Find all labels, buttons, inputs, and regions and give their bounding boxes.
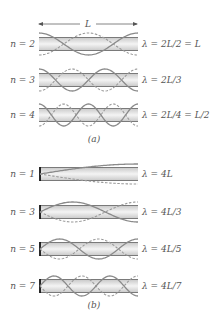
tube-part_b-n1: n = 1λ = 4L: [10, 164, 172, 184]
arrowhead-left-icon: [38, 22, 43, 26]
wavelength-equation: λ = 2L/4 = L/2: [141, 110, 210, 120]
standing-waves-diagram: L n = 2λ = 2L/2 = Ln = 3λ = 2L/3n = 4λ =…: [0, 0, 219, 316]
tube-body: [40, 168, 138, 181]
length-dimension: L: [38, 19, 138, 29]
wavelength-equation: λ = 4L/3: [141, 207, 182, 217]
tube-body: [39, 38, 138, 51]
mode-number-label: n = 2: [10, 39, 35, 49]
tube-part_b-n3: n = 3λ = 4L/3: [10, 202, 181, 222]
tube-part_b-n7: n = 7λ = 4L/7: [10, 276, 181, 296]
tube-body: [39, 109, 138, 122]
wavelength-equation: λ = 2L/2 = L: [141, 39, 201, 49]
mode-number-label: n = 1: [10, 169, 35, 179]
mode-number-label: n = 5: [10, 244, 35, 254]
part-a-caption: (a): [88, 134, 101, 144]
part-b-closed-tubes: n = 1λ = 4Ln = 3λ = 4L/3n = 5λ = 4L/5n =…: [10, 164, 181, 296]
wavelength-equation: λ = 4L/7: [141, 281, 182, 291]
mode-number-label: n = 3: [10, 75, 35, 85]
tube-body: [40, 206, 138, 219]
part-b-caption: (b): [88, 300, 101, 310]
tube-part_a-n2: n = 2λ = 2L/2 = L: [10, 33, 200, 55]
wavelength-equation: λ = 4L/5: [141, 244, 182, 254]
tube-part_b-n5: n = 5λ = 4L/5: [10, 239, 181, 259]
mode-number-label: n = 3: [10, 207, 35, 217]
mode-number-label: n = 4: [10, 110, 35, 120]
wavelength-equation: λ = 4L: [141, 169, 173, 179]
wavelength-equation: λ = 2L/3: [141, 75, 182, 85]
part-a-open-tubes: n = 2λ = 2L/2 = Ln = 3λ = 2L/3n = 4λ = 2…: [10, 33, 209, 126]
mode-number-label: n = 7: [10, 281, 35, 291]
tube-part_a-n4: n = 4λ = 2L/4 = L/2: [10, 104, 209, 126]
tube-part_a-n3: n = 3λ = 2L/3: [10, 69, 181, 91]
arrowhead-right-icon: [133, 22, 138, 26]
length-label: L: [84, 19, 91, 29]
